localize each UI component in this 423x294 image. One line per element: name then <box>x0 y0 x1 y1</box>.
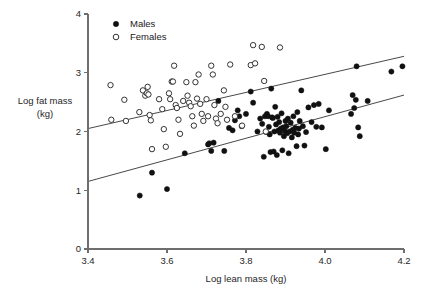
y-tick-label: 0 <box>76 243 81 254</box>
data-point-male <box>230 128 235 133</box>
data-point-male <box>400 64 405 69</box>
data-point-male <box>350 92 355 97</box>
data-point-female <box>210 72 215 77</box>
data-point-male <box>255 129 260 134</box>
data-point-female <box>261 78 266 83</box>
data-point-male <box>323 147 328 152</box>
data-point-male <box>269 86 274 91</box>
data-point-female <box>250 42 255 47</box>
data-point-male <box>273 104 278 109</box>
data-point-female <box>193 79 198 84</box>
data-point-male <box>248 89 253 94</box>
x-axis-title: Log lean mass (kg) <box>206 273 287 284</box>
data-point-female <box>145 84 150 89</box>
data-point-female <box>108 82 113 87</box>
data-point-female <box>224 117 229 122</box>
x-tick-label: 3.4 <box>81 255 94 266</box>
data-point-female <box>161 126 166 131</box>
data-point-female <box>185 93 190 98</box>
data-point-male <box>365 98 370 103</box>
data-point-female <box>149 146 154 151</box>
y-tick-label: 3 <box>76 67 81 78</box>
data-point-male <box>356 125 361 130</box>
data-point-female <box>239 123 244 128</box>
y-tick-label: 1 <box>76 185 81 196</box>
data-point-female <box>167 96 172 101</box>
data-point-male <box>274 152 279 157</box>
x-tick-label: 3.8 <box>239 255 252 266</box>
data-point-male <box>389 69 394 74</box>
data-point-female <box>196 72 201 77</box>
x-tick-label: 3.6 <box>160 255 173 266</box>
legend-label-males: Males <box>130 18 156 29</box>
data-point-male <box>306 105 311 110</box>
data-point-male <box>295 110 300 115</box>
data-point-male <box>284 124 289 129</box>
data-point-female <box>156 96 161 101</box>
data-point-male <box>211 140 216 145</box>
data-point-female <box>228 62 233 67</box>
data-point-male <box>348 111 353 116</box>
data-point-male <box>297 118 302 123</box>
data-point-female <box>212 102 217 107</box>
data-point-female <box>205 114 210 119</box>
data-point-male <box>182 151 187 156</box>
data-point-female <box>194 96 199 101</box>
data-point-female <box>180 98 185 103</box>
data-point-female <box>171 63 176 68</box>
data-point-male <box>279 111 284 116</box>
data-point-male <box>299 88 304 93</box>
data-point-female <box>201 118 206 123</box>
scatter-plot-figure: 012343.43.63.84.04.2 MalesFemales Log le… <box>0 0 423 294</box>
data-point-female <box>146 92 151 97</box>
data-point-female <box>277 45 282 50</box>
data-point-male <box>311 102 316 107</box>
data-point-female <box>174 105 179 110</box>
data-point-female <box>122 97 127 102</box>
data-point-male <box>258 116 263 121</box>
data-point-female <box>259 44 264 49</box>
data-point-female <box>109 117 114 122</box>
y-axis-title-line2: (kg) <box>37 108 53 119</box>
data-point-male <box>357 134 362 139</box>
data-point-female <box>170 79 175 84</box>
data-point-male <box>302 143 307 148</box>
x-tick-label: 4.0 <box>318 255 331 266</box>
data-point-female <box>263 129 268 134</box>
data-point-female <box>215 121 220 126</box>
data-point-male <box>309 120 314 125</box>
data-point-female <box>197 101 202 106</box>
data-point-male <box>251 100 256 105</box>
data-point-male <box>314 124 319 129</box>
data-point-male <box>277 120 282 125</box>
data-point-female <box>223 104 228 109</box>
y-axis-title-line1: Log fat mass <box>18 95 73 106</box>
data-point-female <box>221 88 226 93</box>
data-point-male <box>326 108 331 113</box>
data-point-male <box>354 64 359 69</box>
data-point-female <box>218 111 223 116</box>
data-point-male <box>137 193 142 198</box>
data-point-female <box>163 144 168 149</box>
data-point-male <box>353 97 358 102</box>
data-point-female <box>166 91 171 96</box>
data-point-male <box>261 154 266 159</box>
data-point-male <box>300 124 305 129</box>
chart-canvas: 012343.43.63.84.04.2 MalesFemales Log le… <box>0 0 423 294</box>
data-point-female <box>137 109 142 114</box>
data-point-male <box>319 125 324 130</box>
data-point-male <box>164 186 169 191</box>
data-point-female <box>190 114 195 119</box>
data-point-male <box>288 120 293 125</box>
data-point-male <box>222 148 227 153</box>
data-points-group <box>108 42 405 198</box>
axes-group <box>84 14 404 253</box>
data-point-female <box>177 131 182 136</box>
data-point-male <box>352 105 357 110</box>
data-point-male <box>286 151 291 156</box>
y-tick-label: 4 <box>76 8 81 19</box>
legend-marker-females <box>113 34 119 40</box>
data-point-male <box>296 132 301 137</box>
data-point-male <box>289 135 294 140</box>
data-point-female <box>188 104 193 109</box>
